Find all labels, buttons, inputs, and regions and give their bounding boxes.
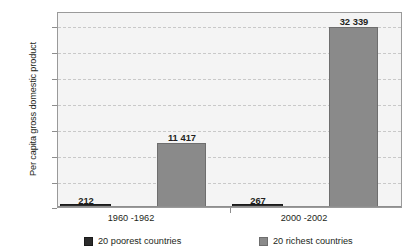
- axis-baseline: [58, 206, 401, 207]
- legend-swatch-icon: [259, 237, 268, 246]
- bar-richest-1960-1962: [157, 143, 206, 207]
- x-axis-label-2000-2002: 2000 -2002: [281, 213, 328, 223]
- bar-value-label: 267: [250, 195, 266, 206]
- bar-chart: Per capita gross domestic product 35 000…: [0, 0, 409, 251]
- plot-area: 212 11 417 267 32 339: [57, 12, 402, 208]
- legend-item-poorest: 20 poorest countries: [84, 236, 181, 246]
- legend-label: 20 poorest countries: [98, 236, 181, 246]
- chart-legend: 20 poorest countries 20 richest countrie…: [0, 236, 409, 250]
- bar-value-label: 32 339: [340, 16, 369, 27]
- legend-label: 20 richest countries: [273, 236, 353, 246]
- y-axis-title: Per capita gross domestic product: [28, 14, 38, 204]
- x-axis-label-1960-1962: 1960 -1962: [108, 213, 155, 223]
- legend-item-richest: 20 richest countries: [259, 236, 353, 246]
- y-tick-mark: [52, 208, 57, 209]
- bar-richest-2000-2002: [329, 27, 378, 207]
- bar-value-label: 11 417: [168, 132, 196, 143]
- x-tick-mark: [230, 208, 231, 213]
- bar-value-label: 212: [78, 195, 94, 206]
- legend-swatch-icon: [84, 237, 93, 246]
